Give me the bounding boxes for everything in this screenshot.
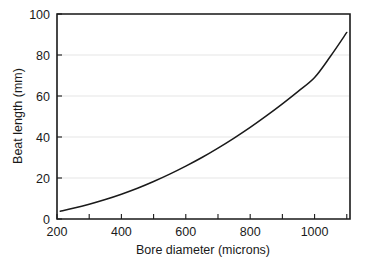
x-axis-title: Bore diameter (microns)	[136, 243, 270, 257]
x-tick-label-200: 200	[47, 225, 68, 239]
x-tick-label-800: 800	[240, 225, 261, 239]
x-tick-label-1000: 1000	[301, 225, 329, 239]
y-tick-label-40: 40	[36, 131, 50, 145]
y-axis-title: Beat length (mm)	[11, 68, 25, 164]
x-tick-label-600: 600	[175, 225, 196, 239]
y-tick-label-100: 100	[29, 8, 50, 22]
x-tick-label-400: 400	[111, 225, 132, 239]
y-tick-label-20: 20	[36, 172, 50, 186]
y-tick-label-80: 80	[36, 49, 50, 63]
chart-container: 020406080100 2004006008001000 Bore diame…	[0, 0, 366, 268]
y-tick-label-60: 60	[36, 90, 50, 104]
beat-length-vs-bore-diameter-chart: 020406080100 2004006008001000 Bore diame…	[0, 0, 366, 268]
